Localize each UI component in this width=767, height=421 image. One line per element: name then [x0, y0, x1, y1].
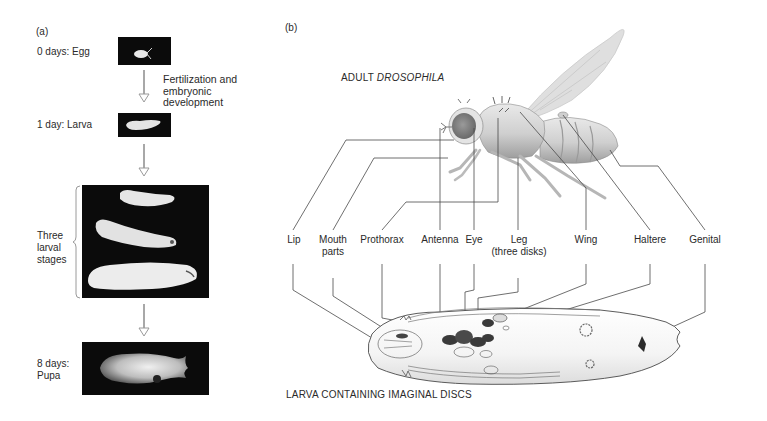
label-wing: Wing: [570, 234, 602, 246]
structure-label: Lip: [283, 234, 305, 246]
structure-label: Mouth: [314, 234, 352, 246]
structure-label: Genital: [683, 234, 727, 246]
label-haltere: Haltere: [628, 234, 672, 246]
structure-label: parts: [314, 246, 352, 258]
drosophila-diagram: [0, 0, 767, 421]
structure-label: Prothorax: [357, 234, 407, 246]
adult-fly-illustration: [441, 29, 624, 198]
structure-label: (three disks): [488, 246, 550, 258]
label-prothorax: Prothorax: [357, 234, 407, 246]
structure-label: Leg: [488, 234, 550, 246]
larva-diagram: [368, 308, 680, 385]
structure-label: Antenna: [418, 234, 462, 246]
label-mouth-parts: Mouth parts: [314, 234, 352, 258]
structure-label: Haltere: [628, 234, 672, 246]
label-lip: Lip: [283, 234, 305, 246]
label-antenna: Antenna: [418, 234, 462, 246]
label-leg: Leg (three disks): [488, 234, 550, 258]
label-genital: Genital: [683, 234, 727, 246]
label-eye: Eye: [463, 234, 485, 246]
structure-label: Eye: [463, 234, 485, 246]
structure-label: Wing: [570, 234, 602, 246]
